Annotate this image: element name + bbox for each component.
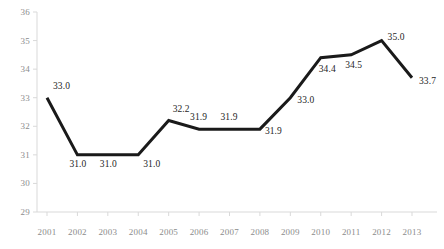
- y-axis-tick-label: 34: [8, 64, 30, 74]
- data-point-label: 31.0: [143, 159, 160, 169]
- data-point-label: 31.9: [221, 112, 238, 122]
- data-point-label: 31.9: [265, 126, 282, 136]
- x-axis-tick-label: 2003: [98, 227, 117, 237]
- x-axis-tick-label: 2009: [281, 227, 300, 237]
- y-axis-tick-label: 32: [8, 121, 30, 131]
- y-axis: [33, 12, 37, 212]
- y-axis-tick-label: 29: [8, 207, 30, 217]
- data-point-label: 33.7: [419, 76, 436, 86]
- data-point-label: 34.5: [345, 60, 362, 70]
- data-point-label: 33.0: [53, 81, 70, 91]
- x-axis-tick-label: 2013: [403, 227, 422, 237]
- x-axis-tick-label: 2002: [68, 227, 87, 237]
- x-axis-tick-label: 2007: [220, 227, 239, 237]
- y-axis-ticks: [33, 12, 37, 212]
- x-axis-tick-label: 2010: [311, 227, 330, 237]
- y-axis-tick-label: 35: [8, 36, 30, 46]
- data-point-label: 33.0: [297, 95, 314, 105]
- y-axis-tick-label: 31: [8, 150, 30, 160]
- data-point-label: 32.2: [173, 104, 190, 114]
- x-axis: [37, 212, 437, 216]
- chart-plot-area: [0, 0, 444, 249]
- data-series-line: [47, 41, 412, 155]
- data-point-label: 34.4: [319, 64, 336, 74]
- x-axis-tick-label: 2001: [38, 227, 57, 237]
- data-point-label: 35.0: [388, 32, 405, 42]
- x-axis-ticks: [47, 212, 412, 216]
- y-axis-tick-label: 30: [8, 178, 30, 188]
- data-point-label: 31.9: [190, 112, 207, 122]
- x-axis-tick-label: 2006: [190, 227, 209, 237]
- x-axis-tick-label: 2004: [129, 227, 148, 237]
- x-axis-tick-label: 2008: [251, 227, 270, 237]
- x-axis-tick-label: 2012: [372, 227, 391, 237]
- data-point-label: 31.0: [69, 159, 86, 169]
- line-chart: 2930313233343536 20012002200320042005200…: [0, 0, 444, 249]
- x-axis-tick-label: 2011: [342, 227, 360, 237]
- y-axis-tick-label: 33: [8, 93, 30, 103]
- data-point-label: 31.0: [100, 159, 117, 169]
- x-axis-tick-label: 2005: [159, 227, 178, 237]
- y-axis-tick-label: 36: [8, 7, 30, 17]
